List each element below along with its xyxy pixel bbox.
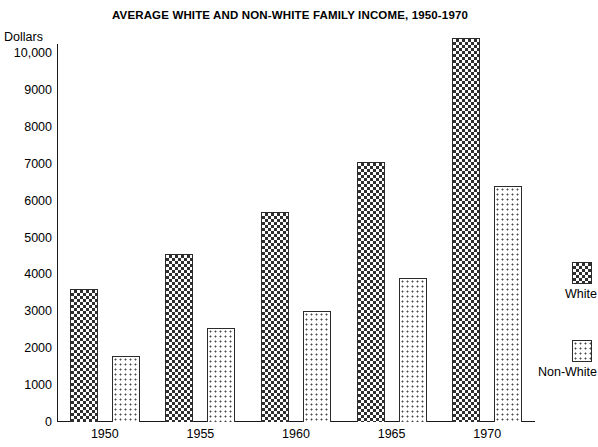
bars-layer [57,0,535,422]
bar-group [452,0,522,422]
y-axis-tick-label: 5000 [0,232,52,244]
y-axis-tick-label: 10,000 [0,47,52,59]
x-axis-tick-labels: 19501955196019651970 [57,427,535,447]
legend-label-white: White [565,287,597,301]
y-axis-tick-label: 0 [0,416,52,428]
bar-white-1955 [165,254,193,422]
bar-group [261,0,331,422]
x-axis-tick-label: 1970 [473,427,501,441]
chart-legend: White Non-White [536,262,598,392]
legend-swatch-nonwhite-icon [572,340,592,362]
bar-group [70,0,140,422]
y-axis-tick-label: 6000 [0,195,52,207]
bar-non-white-1965 [399,278,427,422]
bar-group [357,0,427,422]
x-axis-tick-label: 1960 [282,427,310,441]
y-axis-tick-labels: 010002000300040005000600070008000900010,… [0,0,52,447]
y-axis-tick-label: 3000 [0,305,52,317]
bar-white-1970 [452,38,480,422]
income-bar-chart: AVERAGE WHITE AND NON-WHITE FAMILY INCOM… [0,0,598,447]
y-axis-tick-label: 4000 [0,268,52,280]
y-axis-tick-label: 9000 [0,84,52,96]
bar-white-1965 [357,162,385,422]
legend-label-nonwhite: Non-White [538,365,597,379]
y-axis-tick-label: 8000 [0,121,52,133]
y-axis-tick-label: 7000 [0,158,52,170]
bar-white-1950 [70,289,98,422]
y-axis-tick-label: 2000 [0,342,52,354]
bar-group [165,0,235,422]
bar-non-white-1970 [494,186,522,422]
bar-non-white-1955 [207,328,235,422]
x-axis-tick-label: 1950 [91,427,119,441]
bar-non-white-1950 [112,356,140,422]
bar-white-1960 [261,212,289,422]
bar-non-white-1960 [303,311,331,422]
legend-swatch-white-icon [572,262,592,284]
x-axis-tick-label: 1965 [378,427,406,441]
y-axis-tick-label: 1000 [0,379,52,391]
x-axis-tick-label: 1955 [186,427,214,441]
